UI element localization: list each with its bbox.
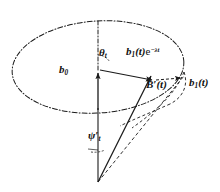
b1-decay-factor-exponent: −λt	[150, 46, 159, 53]
figure-canvas: θt b0 b1(t)e−λt B′(t) b1(t) ψ′t	[0, 0, 220, 192]
psi-subscript: t	[98, 135, 100, 143]
b1-decay-arg: (t)	[135, 45, 145, 57]
vector-diagram-svg	[0, 0, 220, 192]
label-psi: ψ′t	[88, 130, 100, 143]
b1-decay-arrow	[100, 70, 152, 80]
theta-subscript: t	[105, 52, 107, 60]
label-b0: b0	[59, 64, 68, 77]
label-b1-decay: b1(t)e−λt	[126, 46, 159, 59]
b1-arg: (t)	[198, 76, 208, 88]
label-B-prime: B′(t)	[146, 79, 167, 90]
label-theta: θt	[99, 47, 107, 60]
B-prime-arrow	[98, 76, 151, 182]
B-prime-arg: (t)	[156, 78, 166, 90]
b0-subscript: 0	[65, 69, 69, 77]
psi-angle-arc	[88, 149, 105, 152]
label-b1-t: b1(t)	[189, 77, 209, 90]
cone-edge-dashed-line	[98, 76, 184, 182]
